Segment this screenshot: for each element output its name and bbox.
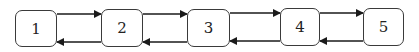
node-2-label: 2 — [117, 19, 127, 37]
node-1-label: 1 — [31, 20, 41, 38]
node-5: 5 — [363, 8, 404, 46]
linked-list-diagram: 1 2 3 4 5 — [0, 0, 419, 52]
node-2: 2 — [101, 9, 143, 47]
node-3-label: 3 — [204, 19, 214, 37]
node-4: 4 — [280, 8, 320, 46]
node-1: 1 — [15, 10, 57, 47]
node-4-label: 4 — [295, 18, 305, 36]
node-3: 3 — [187, 9, 230, 47]
node-5-label: 5 — [379, 18, 389, 36]
